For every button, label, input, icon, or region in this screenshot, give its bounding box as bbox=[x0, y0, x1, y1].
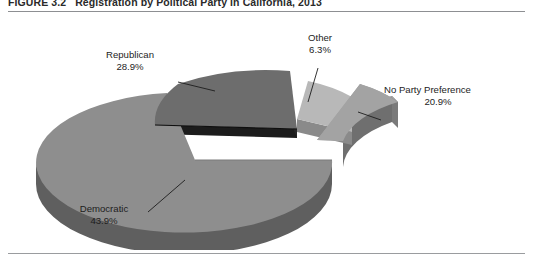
figure-caption: FIGURE 3.2Registration by Political Part… bbox=[8, 0, 322, 8]
slice-label-no-party-preference-name: No Party Preference bbox=[384, 84, 471, 95]
slice-top-republican bbox=[155, 70, 297, 129]
slice-label-other-value: 6.3% bbox=[290, 44, 350, 56]
slice-label-no-party-preference: No Party Preference 20.9% bbox=[384, 84, 504, 107]
slice-label-other: Other 6.3% bbox=[290, 32, 350, 55]
slice-label-republican: Republican 28.9% bbox=[84, 49, 176, 72]
slice-label-democratic-name: Democratic bbox=[80, 203, 129, 214]
page-title: Registration by Political Party in Calif… bbox=[75, 0, 322, 8]
slice-label-democratic-value: 43.9% bbox=[58, 215, 150, 227]
slice-label-other-name: Other bbox=[308, 32, 332, 43]
slice-label-republican-name: Republican bbox=[106, 49, 154, 60]
slice-label-republican-value: 28.9% bbox=[84, 61, 176, 73]
figure-container: FIGURE 3.2Registration by Political Part… bbox=[0, 0, 533, 260]
figure-number: FIGURE 3.2 bbox=[8, 0, 66, 8]
slice-label-no-party-preference-value: 20.9% bbox=[384, 96, 492, 108]
slice-label-democratic: Democratic 43.9% bbox=[58, 203, 150, 226]
divider-bottom bbox=[8, 253, 525, 254]
